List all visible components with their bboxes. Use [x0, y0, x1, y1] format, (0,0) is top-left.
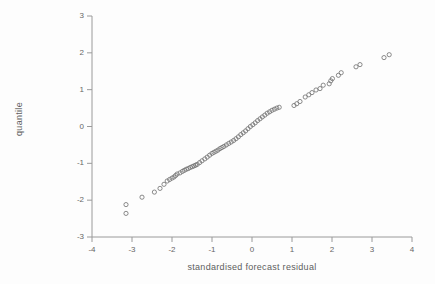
data-point: [124, 211, 128, 215]
x-tick-label: 0: [240, 245, 264, 255]
x-tick-label: 2: [320, 245, 344, 255]
data-point: [321, 83, 325, 87]
data-point: [298, 99, 302, 103]
y-tick-label: 2: [62, 48, 84, 58]
data-point: [387, 53, 391, 57]
y-tick-label: 3: [62, 11, 84, 21]
y-tick-label: 1: [62, 85, 84, 95]
data-point: [140, 195, 144, 199]
x-tick-label: 1: [280, 245, 304, 255]
x-tick-label: -1: [200, 245, 224, 255]
data-point: [124, 203, 128, 207]
data-point: [358, 63, 362, 67]
x-axis-label: standardised forecast residual: [92, 262, 412, 272]
x-tick-label: -3: [120, 245, 144, 255]
qq-plot-figure: -4-3-2-101234-3-2-10123 standardised for…: [0, 0, 435, 284]
data-point: [310, 91, 314, 95]
x-tick-label: -4: [80, 245, 104, 255]
y-tick-label: 0: [62, 122, 84, 132]
data-point: [339, 71, 343, 75]
data-point: [318, 87, 322, 91]
y-axis-label: quantile: [14, 74, 24, 164]
data-point: [314, 88, 318, 92]
x-tick-label: 3: [360, 245, 384, 255]
x-tick-label: -2: [160, 245, 184, 255]
data-point: [382, 56, 386, 60]
x-tick-label: 4: [400, 245, 424, 255]
data-point: [354, 65, 358, 69]
y-tick-label: -3: [62, 232, 84, 242]
y-tick-label: -2: [62, 195, 84, 205]
data-point: [162, 182, 166, 186]
y-tick-label: -1: [62, 158, 84, 168]
data-point: [158, 186, 162, 190]
data-point: [152, 190, 156, 194]
